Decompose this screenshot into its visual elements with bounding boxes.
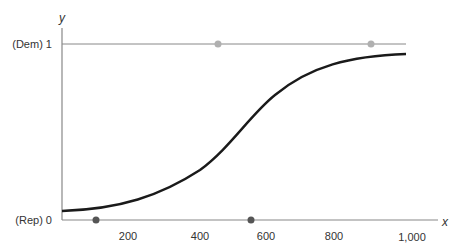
y-tick-rep: (Rep) 0 [15, 214, 52, 226]
x-tick-400: 400 [191, 230, 209, 242]
x-axis-label: x [441, 215, 449, 229]
x-tick-200: 200 [119, 230, 137, 242]
y-tick-dem: (Dem) 1 [12, 38, 52, 50]
dem-point [368, 41, 375, 48]
y-axis-label: y [58, 11, 66, 25]
logistic-curve [62, 54, 406, 211]
rep-point [93, 217, 100, 224]
logit-chart: y x (Dem) 1 (Rep) 0 200 400 600 800 1,00… [0, 0, 458, 252]
x-tick-800: 800 [325, 230, 343, 242]
dem-point [215, 41, 222, 48]
rep-point [248, 217, 255, 224]
x-tick-1000: 1,000 [398, 231, 426, 243]
x-tick-600: 600 [257, 230, 275, 242]
